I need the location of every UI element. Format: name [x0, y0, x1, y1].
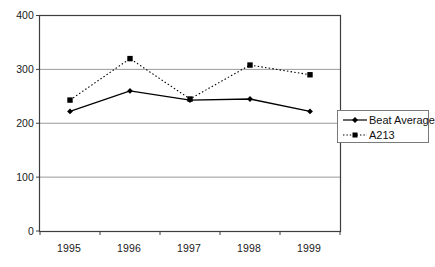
data-point-1-1999: [307, 109, 313, 115]
data-point-2-1998: [247, 62, 252, 67]
series-line-2: [70, 59, 310, 100]
legend-label-beat-average: Beat Average: [369, 114, 435, 126]
legend-marker-beat-average: [342, 114, 368, 126]
data-point-2-1995: [67, 97, 72, 102]
legend-marker-a213: [342, 129, 368, 141]
data-series: [67, 56, 313, 114]
gridlines: [40, 69, 340, 177]
axis-ticks: [36, 16, 340, 236]
legend-label-a213: A213: [369, 129, 395, 141]
data-point-1-1998: [247, 96, 253, 102]
data-point-2-1996: [127, 56, 132, 61]
legend-item-a213: A213: [342, 128, 395, 142]
data-point-1-1996: [127, 88, 133, 94]
data-point-2-1999: [307, 72, 312, 77]
data-point-2-1997: [187, 96, 192, 101]
legend-item-beat-average: Beat Average: [342, 113, 435, 127]
data-point-1-1995: [67, 109, 73, 115]
chart-legend: Beat Average A213: [337, 110, 429, 143]
